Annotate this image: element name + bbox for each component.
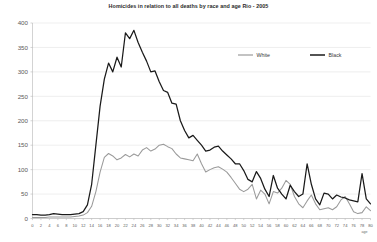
- x-tick-label: 28: [149, 223, 154, 228]
- x-tick-label: 4: [48, 223, 51, 228]
- x-tick-label: 8: [65, 223, 68, 228]
- series-line-white: [33, 144, 371, 217]
- x-axis-title: age: [362, 230, 368, 234]
- x-tick-label: 2: [40, 223, 43, 228]
- gridlines: [33, 23, 371, 219]
- x-tick-label: 58: [275, 223, 280, 228]
- x-tick-label: 16: [98, 223, 103, 228]
- x-tick-label: 0: [31, 223, 34, 228]
- x-tick-label: 50: [241, 223, 246, 228]
- y-tick-label: 50: [21, 190, 28, 197]
- x-tick-label: 30: [157, 223, 162, 228]
- x-tick-label: 32: [165, 223, 170, 228]
- chart-plot: 050100150200250300350400 024681012141618…: [0, 0, 377, 242]
- x-axis-ticks: 0246810121416182022242628303234363840424…: [31, 219, 373, 228]
- y-tick-label: 100: [18, 166, 29, 173]
- legend-label-black: Black: [329, 52, 342, 58]
- x-tick-label: 38: [191, 223, 196, 228]
- x-tick-label: 6: [57, 223, 60, 228]
- x-tick-label: 74: [343, 223, 348, 228]
- x-tick-label: 78: [360, 223, 365, 228]
- x-tick-label: 70: [326, 223, 331, 228]
- x-tick-label: 44: [216, 223, 221, 228]
- x-tick-label: 34: [174, 223, 179, 228]
- x-tick-label: 20: [115, 223, 120, 228]
- x-tick-label: 52: [250, 223, 255, 228]
- x-tick-label: 46: [225, 223, 230, 228]
- legend-label-white: White: [257, 52, 271, 58]
- x-tick-label: 64: [301, 223, 306, 228]
- x-tick-label: 10: [72, 223, 77, 228]
- x-tick-label: 26: [140, 223, 145, 228]
- y-tick-label: 150: [18, 141, 29, 148]
- x-tick-label: 76: [351, 223, 356, 228]
- y-tick-label: 300: [18, 68, 29, 75]
- x-tick-label: 62: [292, 223, 297, 228]
- x-tick-label: 22: [123, 223, 128, 228]
- chart-legend: WhiteBlack: [238, 52, 342, 58]
- x-tick-label: 56: [267, 223, 272, 228]
- x-tick-label: 12: [81, 223, 86, 228]
- y-tick-label: 350: [18, 44, 29, 51]
- x-tick-label: 36: [182, 223, 187, 228]
- x-tick-label: 42: [208, 223, 213, 228]
- x-tick-label: 54: [258, 223, 263, 228]
- x-tick-label: 18: [106, 223, 111, 228]
- x-tick-label: 72: [334, 223, 339, 228]
- x-tick-label: 24: [132, 223, 137, 228]
- y-tick-label: 0: [25, 215, 29, 222]
- y-tick-label: 250: [18, 93, 29, 100]
- x-tick-label: 48: [233, 223, 238, 228]
- chart-container: Homicides in relation to all deaths by r…: [0, 0, 377, 242]
- data-series: [33, 30, 371, 217]
- y-tick-label: 400: [18, 19, 29, 26]
- x-tick-label: 40: [199, 223, 204, 228]
- x-tick-label: 66: [309, 223, 314, 228]
- x-tick-label: 80: [368, 223, 373, 228]
- y-axis-ticks: 050100150200250300350400: [18, 19, 33, 222]
- y-tick-label: 200: [18, 117, 29, 124]
- x-tick-label: 14: [89, 223, 94, 228]
- x-tick-label: 60: [284, 223, 289, 228]
- series-line-black: [33, 30, 371, 215]
- x-tick-label: 68: [318, 223, 323, 228]
